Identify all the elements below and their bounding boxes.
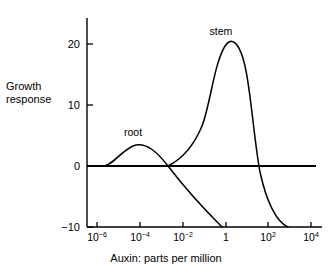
x-tick-label-2: 10−4 <box>120 231 160 243</box>
x-tick-label-1-exp: −6 <box>99 231 107 238</box>
x-tick-label-6-base: 10 <box>303 231 315 243</box>
y-axis-ticks <box>87 44 93 227</box>
x-tick-label-6: 104 <box>291 231 331 243</box>
x-tick-label-1-base: 10 <box>87 231 99 243</box>
auxin-growth-response-chart: 20 10 0 −10 10−6 10−4 10−2 1 102 104 roo… <box>0 0 332 274</box>
x-tick-label-2-base: 10 <box>130 231 142 243</box>
x-tick-label-4: 1 <box>206 231 246 243</box>
x-tick-label-5: 102 <box>248 231 288 243</box>
x-tick-label-2-exp: −4 <box>142 231 150 238</box>
x-tick-label-5-base: 10 <box>260 231 272 243</box>
y-tick-label-minus10: −10 <box>44 221 80 233</box>
x-tick-label-5-exp: 2 <box>272 231 276 238</box>
y-axis-title: Growth response <box>6 80 78 105</box>
x-axis-title: Auxin: parts per million <box>0 252 332 264</box>
y-tick-label-0: 0 <box>44 160 80 172</box>
x-axis-ticks <box>97 222 311 227</box>
x-tick-label-3: 10−2 <box>163 231 203 243</box>
y-tick-label-20: 20 <box>44 38 80 50</box>
x-tick-label-4-base: 1 <box>223 231 229 243</box>
x-tick-label-3-base: 10 <box>173 231 185 243</box>
root-curve-label: root <box>113 126 153 138</box>
x-tick-label-1: 10−6 <box>77 231 117 243</box>
x-tick-label-6-exp: 4 <box>315 231 319 238</box>
root-curve <box>103 145 222 227</box>
stem-curve-label: stem <box>201 25 241 37</box>
stem-curve <box>168 41 288 227</box>
x-tick-label-3-exp: −2 <box>185 231 193 238</box>
